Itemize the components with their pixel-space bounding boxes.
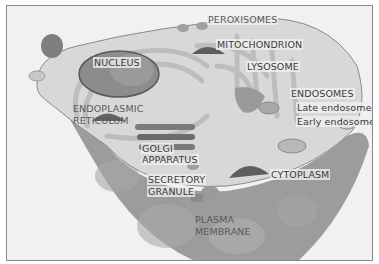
label-early-endosome: Early endosome (296, 116, 373, 127)
label-er-line2: RETICULUM (73, 115, 129, 126)
label-golgi-line2: APPARATUS (141, 154, 199, 165)
label-secretory-line2: GRANULE (147, 186, 195, 197)
label-plasma-line1: PLASMA (195, 214, 234, 225)
label-nucleus: NUCLEUS (93, 57, 141, 68)
label-cytoplasm: CYTOPLASM (270, 169, 330, 180)
diagram-frame: PEROXISOMES MITOCHONDRION NUCLEUS LYSOSO… (6, 5, 373, 261)
label-er-line1: ENDOPLASMIC (73, 103, 143, 114)
label-late-endosome: Late endosome (296, 102, 373, 113)
label-golgi-line1: GOLGI (141, 143, 174, 154)
label-endosomes: ENDOSOMES (290, 88, 355, 99)
cell-illustration (7, 6, 373, 261)
label-peroxisomes: PEROXISOMES (207, 14, 278, 25)
label-secretory-line1: SECRETORY (147, 174, 206, 185)
label-mitochondrion: MITOCHONDRION (216, 39, 303, 50)
label-plasma-line2: MEMBRANE (195, 226, 251, 237)
label-lysosome: LYSOSOME (246, 61, 300, 72)
